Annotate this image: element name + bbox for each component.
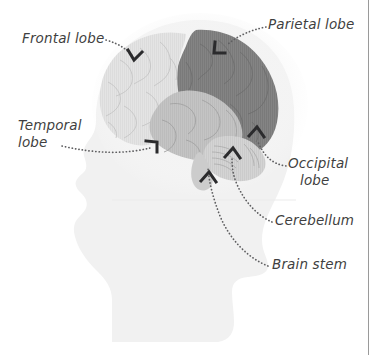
brain-diagram-figure: Frontal lobe Parietal lobe Temporallobe … <box>0 0 382 355</box>
label-cerebellum: Cerebellum <box>275 212 354 229</box>
label-brain-stem: Brain stem <box>272 256 347 273</box>
label-temporal-line2: lobe <box>18 134 48 150</box>
label-parietal-lobe: Parietal lobe <box>268 16 354 33</box>
label-temporal-line1: Temporal <box>18 117 82 133</box>
label-frontal-lobe: Frontal lobe <box>22 30 104 47</box>
label-occipital-line1: Occipital <box>288 155 348 171</box>
label-temporal-lobe: Temporallobe <box>18 117 82 150</box>
label-occipital-line2: lobe <box>288 172 348 189</box>
label-occipital-lobe: Occipitallobe <box>288 155 348 188</box>
right-margin-rule <box>368 0 369 355</box>
